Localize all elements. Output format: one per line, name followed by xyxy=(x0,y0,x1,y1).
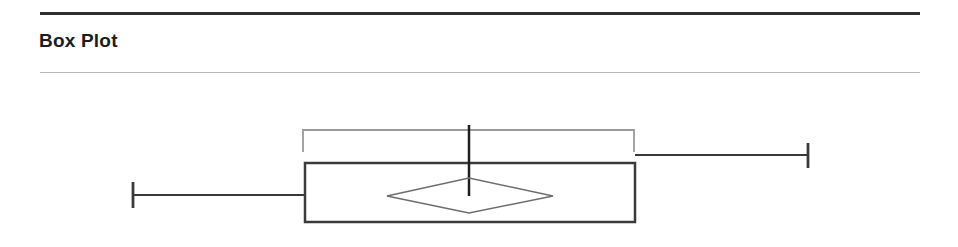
header-top-rule xyxy=(40,12,920,15)
box-plot-page: Box Plot xyxy=(0,0,958,247)
box-plot-svg xyxy=(0,100,958,247)
box-plot-chart xyxy=(0,100,958,247)
whisker-right-group xyxy=(635,143,808,168)
whisker-left-group xyxy=(133,182,305,208)
page-title: Box Plot xyxy=(39,28,118,54)
header-bottom-rule xyxy=(40,72,920,73)
